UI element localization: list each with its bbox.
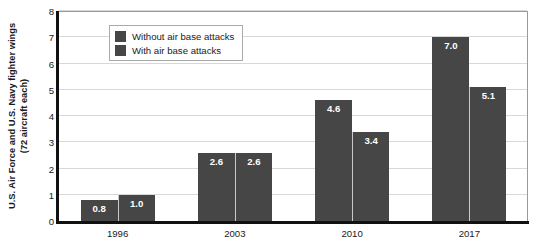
y-axis-title-line-1: U.S. Air Force and U.S. Navy fighter win… <box>6 23 18 209</box>
legend-item-label: With air base attacks <box>132 45 221 56</box>
bar-value-label: 0.8 <box>81 203 118 214</box>
y-axis-tick-label: 3 <box>49 137 54 148</box>
bar[interactable]: 1.0 <box>118 195 155 221</box>
bar-group: 4.63.4 <box>315 12 389 221</box>
legend-item[interactable]: With air base attacks <box>115 43 234 57</box>
bar-chart: U.S. Air Force and U.S. Navy fighter win… <box>0 0 535 252</box>
x-axis-tick-labels: 1996200320102017 <box>59 228 528 248</box>
bar-value-label: 1.0 <box>119 198 155 209</box>
bar-group: 7.05.1 <box>432 12 506 221</box>
x-axis-tick-label: 2010 <box>341 228 362 239</box>
bar-value-label: 5.1 <box>470 90 506 101</box>
y-axis-tick-label: 7 <box>49 32 54 43</box>
y-axis-tick-label: 2 <box>49 163 54 174</box>
y-axis-tick-label: 5 <box>49 84 54 95</box>
bar-value-label: 7.0 <box>432 40 469 51</box>
legend-swatch-icon <box>115 31 126 42</box>
chart-legend: Without air base attacksWith air base at… <box>109 25 243 61</box>
y-axis-title-line-2: (72 aircraft each) <box>18 23 30 209</box>
y-axis-tick-label: 0 <box>49 216 54 227</box>
bar[interactable]: 2.6 <box>198 153 235 221</box>
bar[interactable]: 5.1 <box>469 87 506 221</box>
bar[interactable]: 2.6 <box>235 153 272 221</box>
y-axis-tick-labels: 012345678 <box>36 0 58 232</box>
bar-value-label: 4.6 <box>315 103 352 114</box>
bar-value-label: 2.6 <box>236 156 272 167</box>
bar[interactable]: 4.6 <box>315 100 352 221</box>
legend-item[interactable]: Without air base attacks <box>115 29 234 43</box>
y-axis-tick-label: 6 <box>49 58 54 69</box>
x-axis-tick-label: 2003 <box>224 228 245 239</box>
x-axis-tick-label: 2017 <box>459 228 480 239</box>
bar[interactable]: 3.4 <box>352 132 389 221</box>
y-axis-tick-label: 4 <box>49 111 54 122</box>
y-axis-title: U.S. Air Force and U.S. Navy fighter win… <box>0 0 36 232</box>
bar[interactable]: 7.0 <box>432 37 469 221</box>
bar-value-label: 2.6 <box>198 156 235 167</box>
bar-value-label: 3.4 <box>353 135 389 146</box>
bar[interactable]: 0.8 <box>81 200 118 221</box>
legend-swatch-icon <box>115 45 126 56</box>
gridline <box>59 10 527 11</box>
x-axis-tick-label: 1996 <box>107 228 128 239</box>
legend-item-label: Without air base attacks <box>132 31 234 42</box>
y-axis-tick-label: 1 <box>49 189 54 200</box>
y-axis-tick-label: 8 <box>49 6 54 17</box>
